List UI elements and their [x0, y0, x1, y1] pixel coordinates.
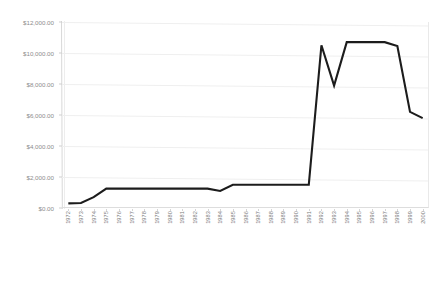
x-axis-tick-label: 2000	[420, 211, 426, 224]
plot-area	[62, 22, 429, 208]
x-axis-tick-label: 1980	[167, 211, 173, 224]
x-axis-tick-label-wrap: 1981	[178, 211, 186, 251]
y-axis-tick-mark	[59, 22, 62, 23]
x-axis-tick-label-wrap: 1989	[279, 211, 287, 251]
x-axis-tick-label-wrap: 1984	[216, 211, 224, 251]
x-axis-tick-label-wrap: 1976	[115, 211, 123, 251]
x-axis-tick-label-wrap: 1975	[102, 211, 110, 251]
x-axis-tick-label-wrap: 1982	[191, 211, 199, 251]
y-axis-labels: $0.00$2,000.00$4,000.00$6,000.00$8,000.0…	[0, 0, 60, 281]
x-axis-tick-label: 1981	[179, 211, 185, 224]
x-axis-tick-label-wrap: 1988	[267, 211, 275, 251]
y-axis-tick-mark	[59, 115, 62, 116]
x-axis-tick-label-wrap: 1977	[128, 211, 136, 251]
x-axis-labels: 1972197319741975197619771978197919801981…	[62, 209, 429, 257]
x-axis-tick-label: 1997	[382, 211, 388, 224]
x-axis-tick-label-wrap: 1974	[90, 211, 98, 251]
x-axis-tick-label-wrap: 1991	[305, 211, 313, 251]
x-axis-tick-label: 1995	[356, 211, 362, 224]
x-axis-tick-label: 1987	[255, 211, 261, 224]
y-axis-tick-mark	[59, 177, 62, 178]
x-axis-tick-label-wrap: 1972	[64, 211, 72, 251]
x-axis-tick-label: 1979	[154, 211, 160, 224]
x-axis-tick-label-wrap: 1987	[254, 211, 262, 251]
x-axis-tick-label: 1991	[306, 211, 312, 224]
x-axis-tick-label-wrap: 1994	[343, 211, 351, 251]
x-axis-tick-label-wrap: 1979	[153, 211, 161, 251]
x-axis-tick-label-wrap: 1985	[229, 211, 237, 251]
y-axis-tick-label: $2,000.00	[26, 174, 54, 181]
x-axis-tick-label: 1996	[369, 211, 375, 224]
x-axis-tick-label: 1999	[407, 211, 413, 224]
y-axis-tick-mark	[59, 53, 62, 54]
x-axis-tick-label: 1976	[116, 211, 122, 224]
x-axis-tick-label: 1972	[65, 211, 71, 224]
x-axis-tick-label: 1993	[331, 211, 337, 224]
line-series	[62, 22, 429, 208]
y-axis-tick-label: $0.00	[39, 205, 54, 212]
y-axis-tick-mark	[59, 208, 62, 209]
x-axis-tick-label-wrap: 1998	[393, 211, 401, 251]
x-axis-tick-label: 1974	[91, 211, 97, 224]
x-axis-tick-label: 1990	[293, 211, 299, 224]
x-axis-tick-label: 1992	[318, 211, 324, 224]
y-axis-tick-label: $4,000.00	[26, 143, 54, 150]
x-axis-tick-label-wrap: 1978	[140, 211, 148, 251]
x-axis-tick-label-wrap: 1999	[406, 211, 414, 251]
x-axis-tick-label: 1985	[230, 211, 236, 224]
x-axis-tick-label-wrap: 1983	[204, 211, 212, 251]
x-axis-tick-label-wrap: 1986	[242, 211, 250, 251]
y-axis-tick-label: $10,000.00	[23, 50, 54, 57]
x-axis-tick-label: 1978	[141, 211, 147, 224]
x-axis-tick-label-wrap: 1980	[166, 211, 174, 251]
x-axis-tick-label-wrap: 1997	[381, 211, 389, 251]
x-axis-tick-label-wrap: 1992	[317, 211, 325, 251]
y-axis-tick-label: $6,000.00	[26, 112, 54, 119]
chart-container: $0.00$2,000.00$4,000.00$6,000.00$8,000.0…	[0, 0, 444, 281]
x-axis-tick-label-wrap: 1990	[292, 211, 300, 251]
x-axis-tick-label: 1973	[78, 211, 84, 224]
x-axis-tick-label: 1982	[192, 211, 198, 224]
y-axis-tick-mark	[59, 146, 62, 147]
x-axis-tick-label: 1984	[217, 211, 223, 224]
x-axis-tick-label-wrap: 2000	[419, 211, 427, 251]
x-axis-tick-label: 1983	[205, 211, 211, 224]
x-axis-tick-label: 1975	[103, 211, 109, 224]
y-axis-tick-label: $8,000.00	[26, 81, 54, 88]
x-axis-tick-label: 1994	[344, 211, 350, 224]
x-axis-tick-label: 1977	[129, 211, 135, 224]
x-axis-tick-label: 1986	[243, 211, 249, 224]
x-axis-tick-label-wrap: 1996	[368, 211, 376, 251]
x-axis-tick-label: 1988	[268, 211, 274, 224]
x-axis-tick-label-wrap: 1995	[355, 211, 363, 251]
y-axis-tick-mark	[59, 84, 62, 85]
y-axis-tick-label: $12,000.00	[23, 19, 54, 26]
x-axis-tick-label: 1998	[394, 211, 400, 224]
x-axis-tick-label: 1989	[280, 211, 286, 224]
x-axis-tick-label-wrap: 1993	[330, 211, 338, 251]
chart-title	[0, 0, 444, 7]
x-axis-tick-label-wrap: 1973	[77, 211, 85, 251]
